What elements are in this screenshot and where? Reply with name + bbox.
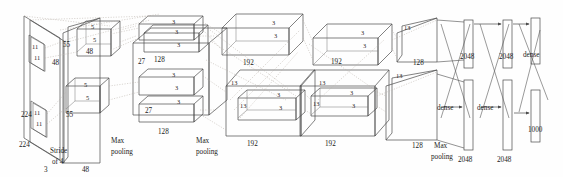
label-maxpool2-line1: Max <box>196 137 210 145</box>
label-k3-c4b1: 3 <box>350 89 353 96</box>
label-maxpool3-line1: Max <box>434 142 448 150</box>
alexnet-architecture-diagram: 224 224 3 11 11 11 11 Stride of 4 55 55 … <box>0 0 563 177</box>
label-kernel11-a: 11 <box>32 43 38 50</box>
label-k3-c2t1: 3 <box>172 18 175 25</box>
label-k3-c2t3: 3 <box>177 41 180 48</box>
label-k5-b2: 5 <box>86 94 89 101</box>
label-k3-c3b2: 3 <box>279 104 282 111</box>
label-fm27-top: 27 <box>138 58 146 66</box>
label-maxpool3-line2: pooling <box>431 153 453 161</box>
label-input-depth: 3 <box>44 166 48 174</box>
label-depth48-bottom: 48 <box>82 166 90 174</box>
label-fm13-a-top: 13 <box>231 79 237 86</box>
label-fm55-top: 55 <box>63 41 71 49</box>
label-k3-c4b2: 3 <box>352 102 355 109</box>
label-d128-bottom: 128 <box>158 128 169 136</box>
label-dense-top: dense <box>523 51 539 59</box>
label-maxpool2-line2: pooling <box>196 148 218 156</box>
label-192-a-top: 192 <box>243 59 254 67</box>
label-2048-b1: 2048 <box>458 156 473 164</box>
structure-lines <box>24 14 548 163</box>
label-d128-top: 128 <box>154 56 165 64</box>
label-fm13-b-top: 13 <box>319 79 325 86</box>
conv5-bottom-plane <box>386 70 437 140</box>
label-fm13-c-top: 13 <box>404 24 410 31</box>
fc-arrows <box>443 24 529 113</box>
label-fm13-b-bottom: 13 <box>313 100 319 107</box>
label-k5-t1: 5 <box>91 23 94 30</box>
conv5-top-plane <box>397 18 437 62</box>
label-192-b-bottom: 192 <box>325 140 336 148</box>
label-output-1000: 1000 <box>528 126 543 134</box>
fc-bars-bottom <box>464 80 540 150</box>
label-dense-mid1: dense <box>437 104 453 112</box>
label-k3-c2t2: 3 <box>175 28 178 35</box>
label-k3-c2b2: 3 <box>175 84 178 91</box>
label-kernel11-b: 11 <box>34 54 40 61</box>
label-fm13-a-bottom: 13 <box>240 102 246 109</box>
label-fm13-c-b1: 13 <box>396 72 402 79</box>
label-128-c-bottom: 128 <box>412 142 423 150</box>
label-k3-c2b1: 3 <box>172 71 175 78</box>
label-k3-c2b3: 3 <box>177 98 180 105</box>
label-input-height: 224 <box>21 111 32 119</box>
label-k3-c3t2: 3 <box>274 32 277 39</box>
label-input-width: 224 <box>19 141 30 149</box>
diagram-canvas: 224 224 3 11 11 11 11 Stride of 4 55 55 … <box>0 0 563 177</box>
label-k5-b1: 5 <box>84 81 87 88</box>
label-k3-c4t2: 3 <box>363 42 366 49</box>
label-stride-line2: of 4 <box>52 158 64 166</box>
label-2048-t2: 2048 <box>499 53 514 61</box>
label-192-b-top: 192 <box>331 58 342 66</box>
label-dense-mid2: dense <box>477 104 493 112</box>
label-128-c-top: 128 <box>413 59 424 67</box>
label-stride-line1: Stride <box>50 147 67 155</box>
label-2048-b2: 2048 <box>497 156 512 164</box>
conv3-top-volume <box>222 14 303 55</box>
label-192-a-bottom: 192 <box>247 140 258 148</box>
label-fm55-bottom: 55 <box>66 111 74 119</box>
label-kernel11-d: 11 <box>36 120 42 127</box>
label-fm27-bottom: 27 <box>145 107 153 115</box>
label-k3-c4t1: 3 <box>361 29 364 36</box>
conv4-top-volume <box>313 24 392 65</box>
label-k5-t2: 5 <box>93 36 96 43</box>
label-maxpool1-line2: pooling <box>111 148 133 156</box>
input-image-plane <box>24 16 64 163</box>
label-d48-block: 48 <box>86 48 94 56</box>
label-depth48-top: 48 <box>52 59 60 67</box>
label-2048-t1: 2048 <box>460 53 475 61</box>
label-kernel11-c: 11 <box>34 109 40 116</box>
label-k3-c3b1: 3 <box>277 91 280 98</box>
label-k3-c3t1: 3 <box>272 19 275 26</box>
label-maxpool1-line1: Max <box>111 137 125 145</box>
